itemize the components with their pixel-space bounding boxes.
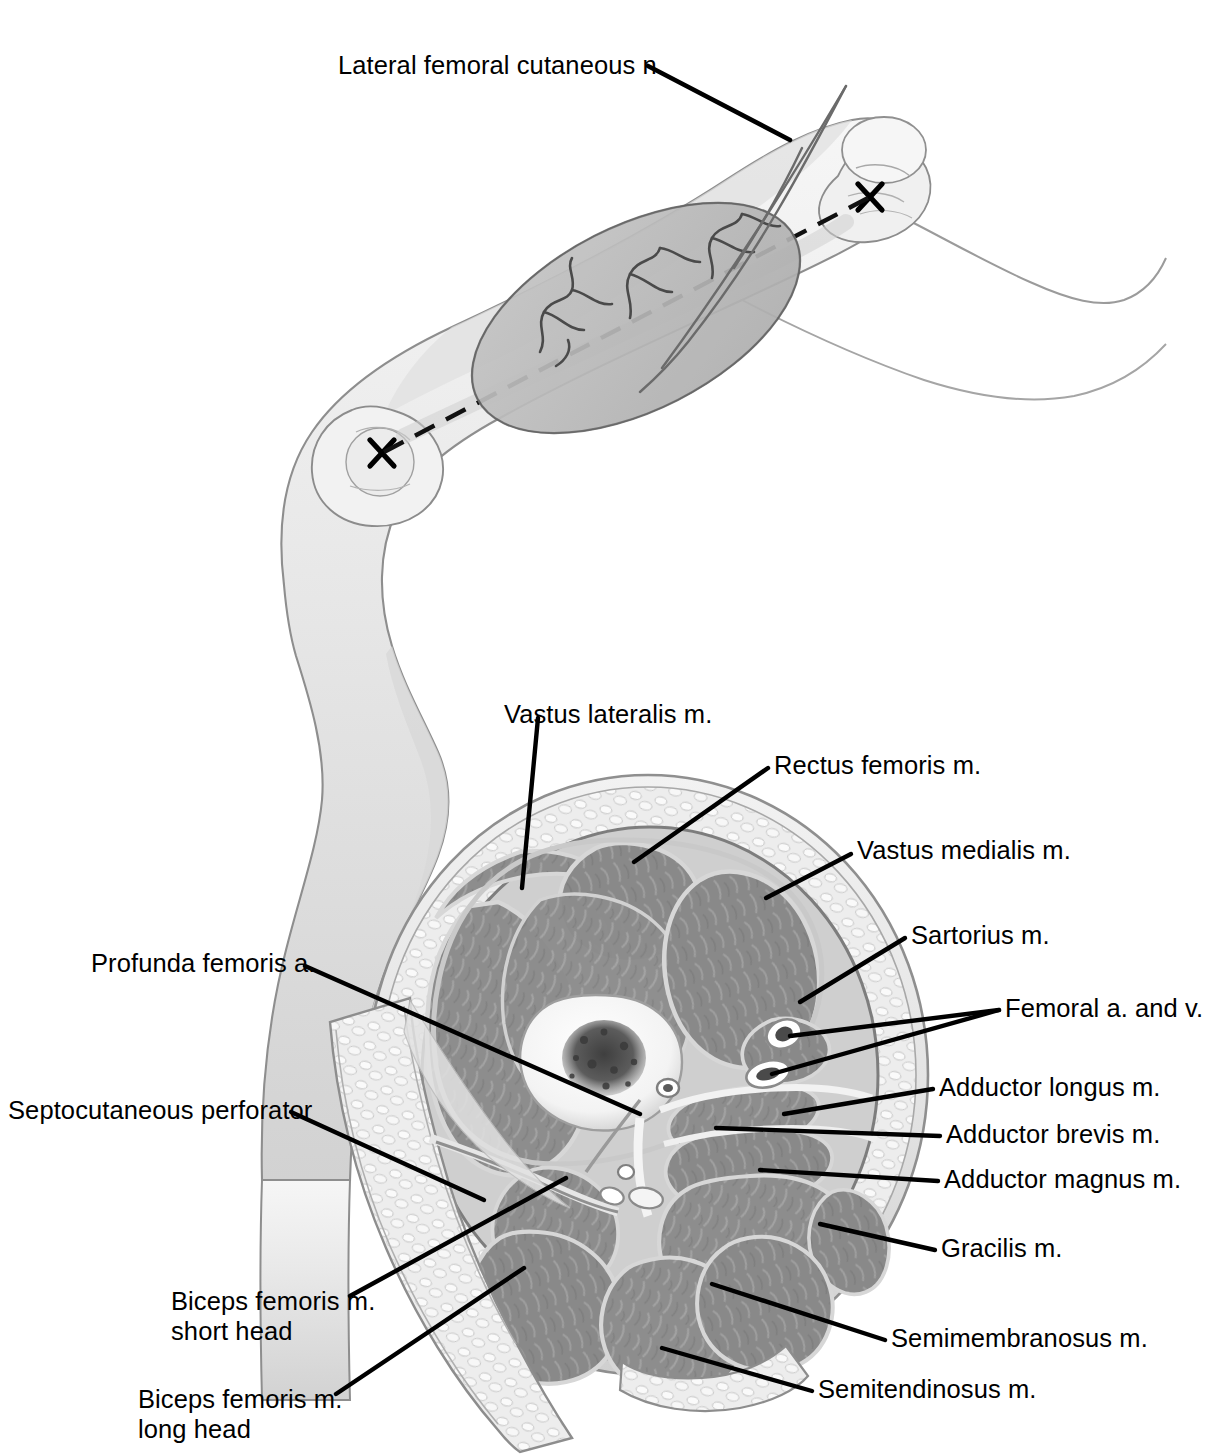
femur-with-marrow: [520, 995, 682, 1130]
label-adductor-magnus: Adductor magnus m.: [944, 1164, 1181, 1194]
label-biceps-femoris-short-head: Biceps femoris m. short head: [171, 1286, 375, 1346]
label-biceps-femoris-long-head: Biceps femoris m. long head: [138, 1384, 342, 1444]
muscle-semimembranosus: [697, 1237, 832, 1372]
label-gracilis: Gracilis m.: [941, 1233, 1063, 1263]
label-semitendinosus: Semitendinosus m.: [818, 1374, 1037, 1404]
label-adductor-brevis: Adductor brevis m.: [946, 1119, 1160, 1149]
label-semimembranosus: Semimembranosus m.: [891, 1323, 1148, 1353]
proximal-limb-contour: [900, 216, 1166, 303]
label-vastus-lateralis: Vastus lateralis m.: [504, 699, 712, 729]
label-septocutaneous-perforator: Septocutaneous perforator: [8, 1095, 312, 1125]
label-sartorius: Sartorius m.: [911, 920, 1050, 950]
gluteal-contour: [742, 300, 1166, 399]
label-rectus-femoris: Rectus femoris m.: [774, 750, 981, 780]
label-adductor-longus: Adductor longus m.: [939, 1072, 1161, 1102]
label-profunda-femoris-a: Profunda femoris a.: [91, 948, 315, 978]
label-lateral-femoral-cutaneous-n: Lateral femoral cutaneous n.: [338, 50, 664, 80]
leader-lateral-femoral-cutaneous-n: [648, 66, 790, 140]
anatomy-figure: Lateral femoral cutaneous n. Vastus late…: [0, 0, 1216, 1455]
label-femoral-a-and-v: Femoral a. and v.: [1005, 993, 1203, 1023]
label-vastus-medialis: Vastus medialis m.: [857, 835, 1071, 865]
